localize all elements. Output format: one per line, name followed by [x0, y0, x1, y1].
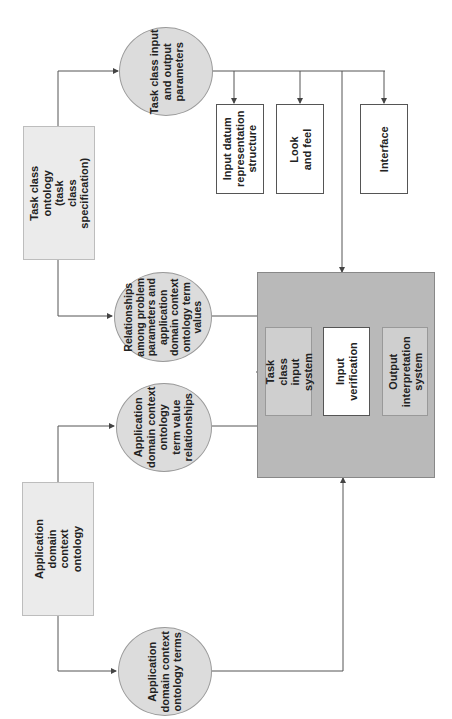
input-verification-box: Input verification	[323, 327, 370, 416]
relationships-label: Relationships among problem parameters a…	[123, 278, 204, 357]
look-and-feel-label: Look and feel	[288, 126, 313, 172]
task-class-ontology-label: Task class ontology (task class specific…	[28, 158, 91, 229]
task-input-system-box: Task class input system	[265, 327, 312, 416]
task-io-parameters-label: Task class input and output parameters	[147, 29, 185, 114]
output-interpretation-box: Output interpretation system	[382, 327, 428, 416]
task-io-parameters-circle: Task class input and output parameters	[119, 27, 213, 116]
task-input-system-label: Task class input system	[264, 349, 314, 394]
term-value-relationships-circle: Application domain context ontology term…	[116, 383, 212, 472]
application-domain-ontology-box: Application domain context ontology	[22, 482, 94, 616]
input-datum-label: Input datum representation structure	[221, 111, 259, 187]
look-and-feel-box: Look and feel	[276, 104, 324, 194]
ontology-terms-circle: Application domain context ontology term…	[118, 627, 212, 716]
interface-box: Interface	[360, 104, 408, 194]
application-domain-ontology-label: Application domain context ontology	[33, 514, 83, 584]
task-class-ontology-box: Task class ontology (task class specific…	[23, 126, 95, 260]
input-datum-box: Input datum representation structure	[216, 104, 264, 194]
term-value-relationships-label: Application domain context ontology term…	[133, 387, 196, 468]
output-interpretation-label: Output interpretation system	[386, 336, 424, 407]
ontology-terms-label: Application domain context ontology term…	[146, 631, 184, 712]
input-verification-label: Input verification	[334, 342, 359, 401]
interface-label: Interface	[378, 126, 391, 172]
relationships-circle: Relationships among problem parameters a…	[114, 272, 212, 362]
